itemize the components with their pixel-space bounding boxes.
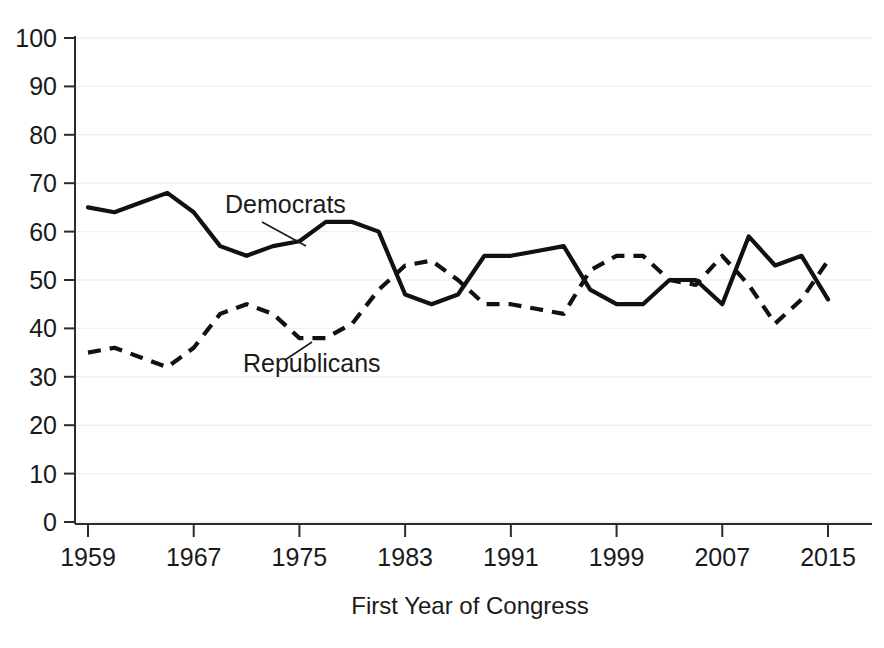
y-tick-label: 10: [29, 460, 57, 488]
x-axis-ticks: 19591967197519831991199920072015: [60, 524, 856, 571]
y-tick-label: 80: [29, 121, 57, 149]
line-chart: 0102030405060708090100 19591967197519831…: [0, 0, 884, 648]
series-line-democrats: [88, 193, 828, 304]
x-tick-label: 1959: [60, 543, 116, 571]
x-axis-title: First Year of Congress: [351, 592, 588, 619]
series-label-republicans: Republicans: [243, 349, 381, 377]
y-tick-label: 30: [29, 363, 57, 391]
y-tick-label: 70: [29, 169, 57, 197]
series-line-republicans: [88, 256, 828, 367]
x-tick-label: 2015: [800, 543, 856, 571]
series-label-democrats: Democrats: [225, 190, 346, 218]
annotation-layer: DemocratsRepublicans: [225, 190, 381, 377]
y-tick-label: 90: [29, 72, 57, 100]
x-tick-label: 2007: [694, 543, 750, 571]
chart-container: 0102030405060708090100 19591967197519831…: [0, 0, 884, 648]
y-tick-label: 0: [43, 508, 57, 536]
y-tick-label: 60: [29, 218, 57, 246]
y-tick-label: 100: [15, 24, 57, 52]
x-tick-label: 1975: [272, 543, 328, 571]
gridlines: [76, 38, 872, 522]
x-tick-label: 1967: [166, 543, 222, 571]
y-tick-label: 50: [29, 266, 57, 294]
y-axis-ticks: 0102030405060708090100: [15, 24, 75, 536]
x-tick-label: 1983: [377, 543, 433, 571]
x-tick-label: 1999: [589, 543, 645, 571]
x-tick-label: 1991: [483, 543, 539, 571]
y-tick-label: 20: [29, 411, 57, 439]
y-tick-label: 40: [29, 314, 57, 342]
